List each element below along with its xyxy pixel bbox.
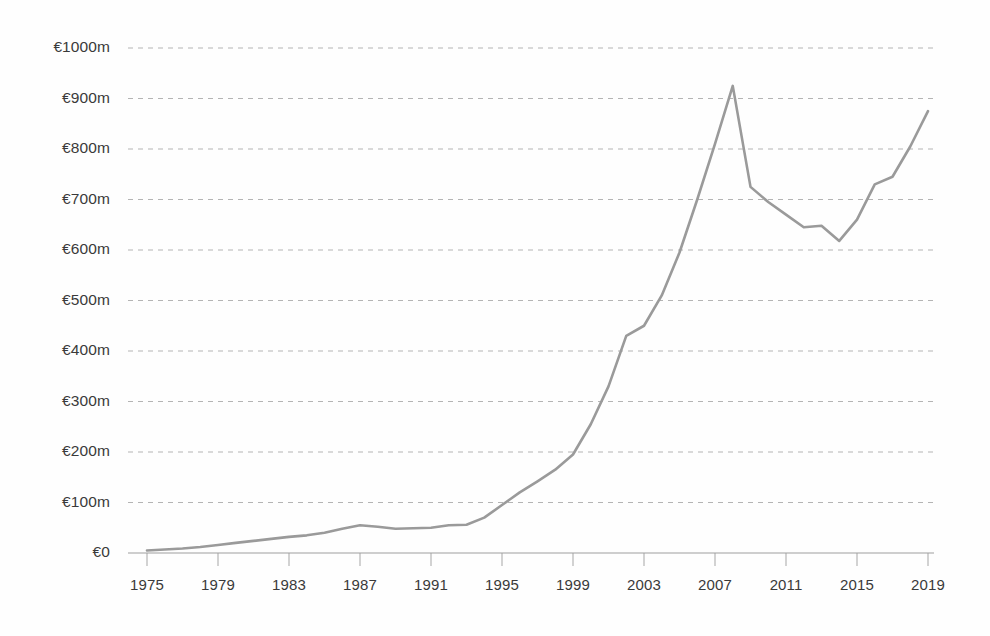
x-axis-tick-label: 2011 [770, 576, 803, 593]
gridlines-group [128, 48, 934, 503]
y-axis-tick-label: €900m [62, 89, 110, 106]
y-axis-tick-label: €600m [62, 240, 110, 257]
y-axis-tick-label: €700m [62, 190, 110, 207]
x-axis-tick-label: 1995 [485, 576, 519, 593]
x-axis-labels-group: 1975197919831987199119951999200320072011… [130, 576, 945, 593]
y-axis-tick-label: €300m [62, 392, 110, 409]
x-axis-tick-label: 1987 [343, 576, 377, 593]
x-axis-tick-label: 1979 [201, 576, 235, 593]
x-axis-tick-label: 2007 [698, 576, 732, 593]
y-axis-labels-group: €0€100m€200m€300m€400m€500m€600m€700m€80… [53, 38, 110, 560]
x-axis-tick-label: 1999 [556, 576, 590, 593]
line-chart: €0€100m€200m€300m€400m€500m€600m€700m€80… [0, 0, 990, 636]
y-axis-tick-label: €400m [62, 341, 110, 358]
y-axis-tick-label: €1000m [53, 38, 110, 55]
x-axis-ticks-group [147, 553, 928, 566]
x-axis-tick-label: 2003 [627, 576, 661, 593]
y-axis-tick-label: €0 [93, 543, 111, 560]
data-line-value [147, 86, 928, 551]
x-axis-tick-label: 2015 [840, 576, 874, 593]
x-axis-tick-label: 1983 [272, 576, 306, 593]
x-axis-tick-label: 1975 [130, 576, 164, 593]
x-axis-tick-label: 2019 [911, 576, 945, 593]
x-axis-tick-label: 1991 [414, 576, 448, 593]
y-axis-tick-label: €800m [62, 139, 110, 156]
y-axis-tick-label: €500m [62, 291, 110, 308]
data-series-group [147, 86, 928, 551]
y-axis-tick-label: €200m [62, 442, 110, 459]
y-axis-tick-label: €100m [62, 493, 110, 510]
chart-canvas: €0€100m€200m€300m€400m€500m€600m€700m€80… [0, 0, 990, 636]
